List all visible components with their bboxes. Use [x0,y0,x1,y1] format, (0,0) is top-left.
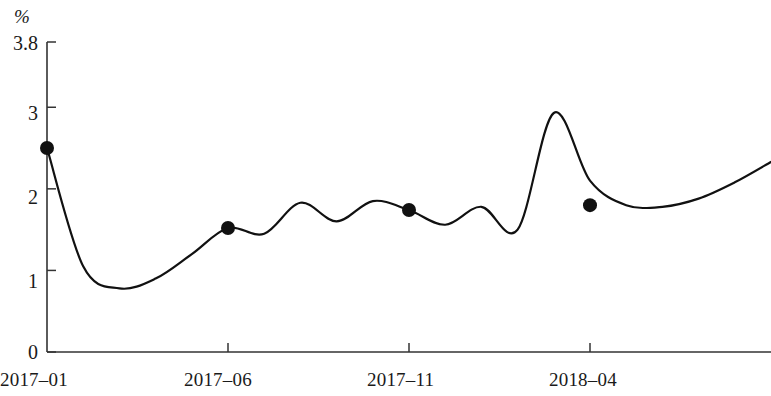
axis-lines [47,42,771,352]
chart-plot-area [0,0,771,396]
data-point-markers [40,141,597,235]
chart-figure: % 3.8 3 2 1 0 2017–01 2017–06 2017–11 20… [0,0,771,396]
axis-ticks [47,42,590,352]
data-series-line [47,112,771,289]
